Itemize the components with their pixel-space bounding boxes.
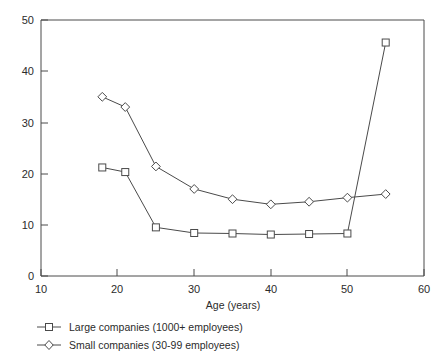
diamond-marker-icon (266, 200, 275, 209)
legend-entry-large: Large companies (1000+ employees) (37, 321, 243, 333)
series-large-companies (99, 39, 389, 238)
square-marker-icon (306, 231, 313, 238)
x-tick-label-20: 20 (111, 283, 123, 295)
square-marker-icon (191, 229, 198, 236)
legend-entry-small: Small companies (30-99 employees) (37, 339, 239, 351)
x-tick-label-50: 50 (341, 283, 353, 295)
x-tick-label-30: 30 (188, 283, 200, 295)
diamond-marker-icon (305, 197, 314, 206)
chart-legend: Large companies (1000+ employees) Small … (37, 321, 243, 351)
x-axis-ticks (41, 269, 424, 276)
x-axis-title: Age (years) (206, 299, 260, 311)
y-tick-label-0: 0 (28, 270, 34, 282)
y-axis-ticks (41, 20, 48, 276)
y-tick-label-50: 50 (22, 14, 34, 26)
y-tick-label-10: 10 (22, 219, 34, 231)
diamond-marker-icon (45, 341, 53, 350)
square-marker-icon (267, 231, 274, 238)
chart-figure: 0 10 20 30 40 50 10 20 30 40 50 60 Age (… (0, 0, 444, 359)
x-tick-label-40: 40 (265, 283, 277, 295)
diamond-marker-icon (98, 92, 107, 101)
square-marker-icon (99, 164, 106, 171)
x-tick-label-10: 10 (35, 283, 47, 295)
legend-label-small: Small companies (30-99 employees) (69, 339, 239, 351)
series-small-companies (98, 92, 390, 208)
y-tick-label-20: 20 (22, 168, 34, 180)
diamond-marker-icon (343, 193, 352, 202)
y-tick-label-40: 40 (22, 65, 34, 77)
x-tick-label-60: 60 (418, 283, 430, 295)
series-line (102, 97, 385, 205)
line-chart: 0 10 20 30 40 50 10 20 30 40 50 60 Age (… (0, 0, 444, 359)
series-line (102, 43, 385, 235)
diamond-marker-icon (381, 190, 390, 199)
legend-label-large: Large companies (1000+ employees) (69, 321, 243, 333)
diamond-marker-icon (121, 103, 130, 112)
data-series-layer (98, 39, 390, 238)
diamond-marker-icon (190, 185, 199, 194)
diamond-marker-icon (152, 162, 161, 171)
square-marker-icon (46, 324, 53, 331)
square-marker-icon (344, 230, 351, 237)
y-tick-label-30: 30 (22, 117, 34, 129)
square-marker-icon (229, 230, 236, 237)
square-marker-icon (152, 224, 159, 231)
square-marker-icon (122, 169, 129, 176)
y-axis-tick-labels: 0 10 20 30 40 50 (22, 14, 34, 282)
diamond-marker-icon (228, 195, 237, 204)
square-marker-icon (382, 39, 389, 46)
plot-frame (41, 20, 424, 276)
x-axis-tick-labels: 10 20 30 40 50 60 (35, 283, 430, 295)
